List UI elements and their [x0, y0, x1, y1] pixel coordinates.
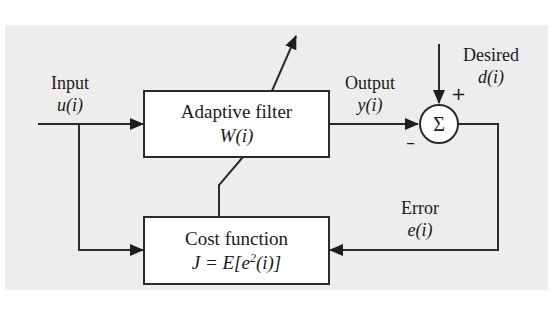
adaptive-filter-name: Adaptive filter — [181, 100, 292, 124]
adaptive-filter-expr: W(i) — [220, 124, 254, 148]
input-label: Input u(i) — [40, 72, 100, 116]
output-expr: y(i) — [334, 94, 406, 116]
desired-label: Desired d(i) — [446, 44, 536, 88]
desired-label-text: Desired — [446, 44, 536, 66]
input-label-text: Input — [40, 72, 100, 94]
input-branch-wire — [79, 124, 143, 250]
desired-expr: d(i) — [446, 66, 536, 88]
minus-sign: – — [406, 131, 415, 152]
error-label: Error e(i) — [385, 197, 455, 241]
adaptive-filter-block: Adaptive filter W(i) — [143, 90, 330, 158]
summing-junction: Σ — [419, 104, 459, 144]
output-label-text: Output — [334, 72, 406, 94]
cost-function-block: Cost function J = E[e2(i)] — [143, 216, 330, 285]
error-label-text: Error — [385, 197, 455, 219]
cost-function-name: Cost function — [185, 227, 288, 251]
output-label: Output y(i) — [334, 72, 406, 116]
cost-function-expr: J = E[e2(i)] — [192, 251, 282, 275]
cost-expr-prefix: J = E[e — [192, 252, 250, 273]
input-expr: u(i) — [40, 94, 100, 116]
cost-expr-suffix: (i)] — [256, 252, 281, 273]
error-expr: e(i) — [385, 219, 455, 241]
adaptation-wire — [219, 157, 243, 216]
sigma-icon: Σ — [433, 113, 445, 136]
